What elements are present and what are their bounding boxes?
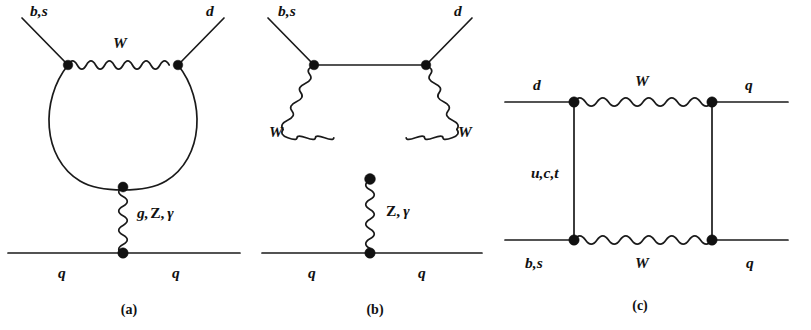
label-a-outgoing-fermion: d: [206, 2, 214, 19]
diagram-panel-a: b,s d W g,Z,γ q q (a): [0, 0, 258, 330]
vertex-b-spectator: [365, 248, 375, 258]
vertex-b-triple-boson: [365, 174, 376, 185]
label-b-w-boson-left: W: [269, 123, 284, 140]
label-a-gauge-boson-z: Z,: [150, 204, 164, 221]
label-c-w-boson-top: W: [635, 72, 650, 89]
label-b-incoming-fermion: b,s: [278, 2, 296, 19]
label-a-gauge-boson-gamma: γ: [167, 204, 174, 221]
gauge-boson-wave-a: [119, 187, 128, 254]
diagram-a-svg: b,s d W g,Z,γ q q (a): [0, 0, 258, 330]
label-c-w-boson-bottom: W: [635, 254, 650, 271]
label-c-internal-quark: u,c,t: [531, 164, 559, 181]
gauge-boson-wave-b: [366, 180, 375, 249]
incoming-fermion-line-a: [22, 18, 68, 65]
label-a-spectator-right: q: [172, 264, 180, 281]
quark-loop-arc-a: [49, 65, 197, 190]
label-c-outgoing-fermion-bottom: q: [746, 254, 754, 271]
label-b-w-boson-right: W: [458, 123, 473, 140]
vertex-b-left: [309, 60, 319, 70]
diagram-b-svg: b,s d W W Z,γ q q (b): [258, 0, 500, 330]
label-a-w-boson: W: [113, 34, 128, 51]
caption-c: (c): [632, 298, 648, 314]
diagram-panel-c: d q W u,c,t b,s q W (c): [500, 0, 811, 330]
label-a-spectator-left: q: [58, 264, 66, 281]
label-c-outgoing-fermion-top: q: [745, 76, 753, 93]
label-c-incoming-fermion-bottom: b,s: [525, 254, 543, 271]
label-b-spectator-left: q: [308, 264, 316, 281]
label-a-incoming-fermion: b,s: [30, 2, 48, 19]
w-boson-wave-a: [68, 61, 169, 69]
label-b-gauge-boson: Z,γ: [386, 202, 410, 219]
label-b-gauge-boson-gamma: γ: [403, 202, 410, 219]
vertex-c-top-right: [707, 97, 717, 107]
vertex-a-spectator: [118, 248, 128, 258]
label-b-outgoing-fermion: d: [454, 2, 462, 19]
outgoing-fermion-line-a: [178, 18, 224, 65]
diagram-panel-b: b,s d W W Z,γ q q (b): [258, 0, 500, 330]
w-boson-right-wave-b: [406, 65, 458, 139]
w-boson-bottom-wave-c: [574, 236, 712, 244]
incoming-fermion-line-b: [268, 18, 314, 65]
outgoing-fermion-line-b: [426, 18, 472, 65]
vertex-c-bottom-right: [707, 235, 717, 245]
w-boson-left-wave-b: [282, 65, 334, 139]
vertex-c-bottom-left: [569, 235, 579, 245]
label-b-spectator-right: q: [418, 264, 426, 281]
vertex-a-left: [63, 60, 73, 70]
label-a-gauge-boson: g,Z,γ: [136, 204, 174, 221]
vertex-b-right: [421, 60, 431, 70]
label-a-gauge-boson-g: g,: [136, 204, 149, 221]
caption-b: (b): [366, 302, 383, 318]
diagram-c-svg: d q W u,c,t b,s q W (c): [500, 0, 811, 330]
vertex-a-right: [173, 60, 183, 70]
vertex-a-loop-bottom: [118, 182, 128, 192]
label-c-incoming-fermion-top: d: [533, 76, 541, 93]
feynman-figure: b,s d W g,Z,γ q q (a): [0, 0, 811, 330]
label-b-gauge-boson-z: Z,: [386, 202, 400, 219]
caption-a: (a): [121, 302, 138, 318]
w-boson-top-wave-c: [574, 98, 712, 106]
vertex-c-top-left: [569, 97, 579, 107]
